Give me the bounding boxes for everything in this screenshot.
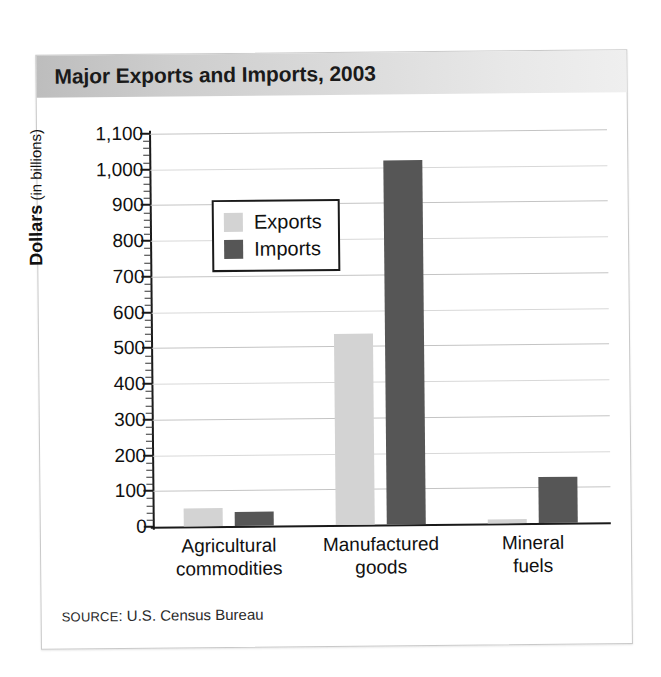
y-tick-minor [146, 448, 153, 449]
y-tick-minor [145, 298, 152, 299]
y-tick-minor [143, 155, 150, 156]
y-tick-minor [144, 198, 151, 199]
x-label-line: Mineral [457, 530, 609, 554]
y-axis-title-sub: (in billions) [27, 129, 45, 205]
x-axis-label-1: Manufacturedgoods [305, 532, 457, 579]
y-tick-major [142, 347, 152, 349]
legend-label-exports: Exports [254, 210, 322, 234]
gridline [151, 379, 609, 384]
y-tick-label: 700 [113, 266, 145, 288]
y-axis-tick-labels: 01002003004005006007008009001,0001,100 [55, 134, 147, 528]
y-tick-minor [144, 191, 151, 192]
x-label-line: commodities [153, 556, 305, 580]
y-tick-minor [145, 327, 152, 328]
y-tick-label: 100 [115, 480, 147, 502]
y-tick-minor [144, 219, 151, 220]
y-tick-minor [146, 427, 153, 428]
y-axis-title: Dollars (in billions) [25, 129, 47, 266]
y-tick-label: 500 [113, 337, 145, 359]
y-tick-minor [145, 319, 152, 320]
y-tick-minor [145, 355, 152, 356]
bar-exports-2 [488, 520, 527, 524]
y-tick-major [140, 133, 150, 135]
y-tick-major [143, 419, 153, 421]
y-tick-minor [146, 462, 153, 463]
gridline [152, 451, 610, 456]
y-tick-label: 800 [112, 230, 144, 252]
x-axis-label-2: Mineralfuels [457, 530, 609, 577]
y-tick-label: 900 [112, 194, 144, 216]
legend-item-exports: Exports [224, 208, 322, 236]
y-tick-minor [145, 291, 152, 292]
x-axis-category-labels: AgriculturalcommoditiesManufacturedgoods… [153, 530, 612, 598]
y-tick-major [141, 204, 151, 206]
legend-item-imports: Imports [224, 235, 322, 263]
y-tick-minor [143, 148, 150, 149]
bar-imports-0 [235, 511, 274, 526]
bar-imports-2 [538, 476, 577, 523]
y-tick-major [143, 454, 153, 456]
gridline [149, 129, 607, 134]
legend-swatch-imports-icon [224, 240, 243, 259]
y-tick-minor [145, 391, 152, 392]
scanned-page: Major Exports and Imports, 2003 Dollars … [0, 0, 661, 677]
y-tick-minor [144, 248, 151, 249]
gridline [150, 272, 608, 277]
gridline [152, 415, 610, 420]
bar-imports-1 [383, 160, 425, 525]
source-text: U.S. Census Bureau [127, 606, 264, 624]
legend-swatch-exports-icon [224, 213, 243, 232]
y-tick-minor [147, 505, 154, 506]
y-tick-minor [146, 434, 153, 435]
gridline [151, 344, 609, 349]
page-title: Major Exports and Imports, 2003 [54, 62, 376, 89]
y-tick-major [141, 240, 151, 242]
y-tick-major [140, 168, 150, 170]
y-tick-minor [146, 484, 153, 485]
x-label-line: Agricultural [153, 533, 305, 557]
y-tick-minor [145, 305, 152, 306]
y-tick-minor [145, 370, 152, 371]
gridline [149, 165, 607, 170]
x-label-line: Manufactured [305, 532, 457, 556]
y-tick-major [141, 276, 151, 278]
y-tick-minor [145, 334, 152, 335]
y-tick-minor [144, 212, 151, 213]
y-tick-minor [145, 362, 152, 363]
y-tick-major [142, 383, 152, 385]
x-axis-label-0: Agriculturalcommodities [153, 533, 305, 580]
y-tick-major [143, 490, 153, 492]
y-tick-label: 400 [114, 373, 146, 395]
y-tick-minor [144, 269, 151, 270]
y-tick-minor [146, 412, 153, 413]
y-tick-minor [146, 477, 153, 478]
y-tick-minor [147, 512, 154, 513]
x-label-line: fuels [457, 553, 609, 577]
y-tick-label: 200 [114, 444, 146, 466]
y-tick-label: 300 [114, 409, 146, 431]
y-tick-minor [144, 184, 151, 185]
x-label-line: goods [305, 555, 457, 579]
bar-exports-0 [184, 508, 223, 526]
y-tick-minor [147, 498, 154, 499]
y-axis-title-main: Dollars [26, 205, 47, 266]
y-tick-minor [143, 162, 150, 163]
y-tick-minor [144, 262, 151, 263]
bar-exports-1 [334, 333, 375, 525]
legend: Exports Imports [212, 199, 340, 272]
y-tick-label: 1,100 [95, 123, 143, 145]
y-tick-label: 600 [113, 301, 145, 323]
y-tick-minor [143, 141, 150, 142]
plot-area: Exports Imports [149, 129, 609, 526]
figure-card: Major Exports and Imports, 2003 Dollars … [35, 49, 633, 650]
y-tick-minor [145, 341, 152, 342]
y-tick-minor [147, 520, 154, 521]
y-tick-minor [144, 284, 151, 285]
source-prefix: SOURCE [62, 609, 119, 625]
y-tick-minor [146, 441, 153, 442]
gridlines [149, 129, 605, 133]
y-tick-major [144, 526, 154, 528]
y-tick-minor [146, 470, 153, 471]
y-tick-minor [144, 234, 151, 235]
y-tick-minor [143, 177, 150, 178]
